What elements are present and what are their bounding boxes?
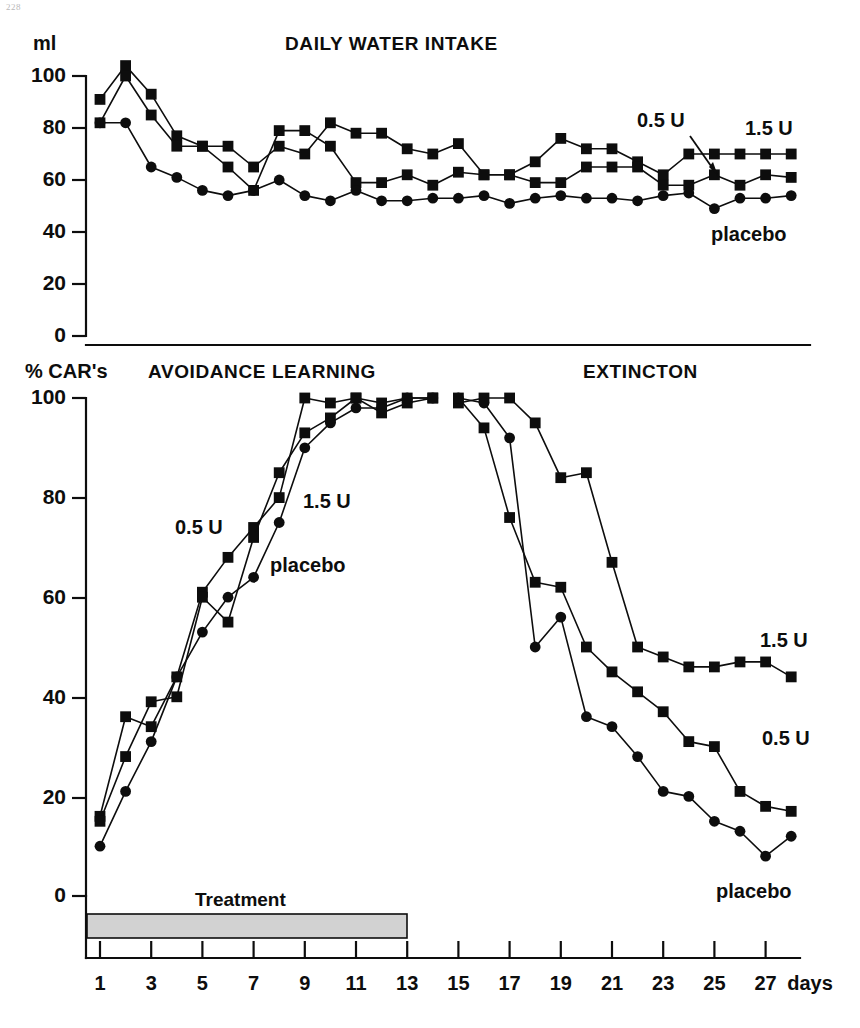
bottom-learning-15u-line: [100, 398, 433, 821]
top-y-tick-100: 100: [31, 63, 66, 86]
bottom-y-tick-40: 40: [43, 685, 66, 708]
bottom-extinction-05u-point: [735, 786, 746, 797]
bottom-learning-placebo-point: [171, 671, 182, 682]
bottom-learning-15u-point: [274, 467, 285, 478]
top-series-placebo-point: [299, 190, 310, 201]
top-label-1_5U: 1.5 U: [745, 117, 793, 139]
bottom-y-ticks: [72, 398, 86, 896]
top-series-placebo-point: [607, 193, 618, 204]
top-series-15u-point: [658, 180, 669, 191]
bottom-x-tick-label-23: 23: [652, 972, 674, 994]
bottom-extinction-placebo-point: [632, 751, 643, 762]
bottom-learning-placebo-point: [146, 736, 157, 747]
bottom-learning-placebo-point: [120, 786, 131, 797]
top-series-placebo-point: [248, 185, 259, 196]
bottom-learning-05u-point: [325, 398, 336, 409]
top-series-05u-point: [171, 130, 182, 141]
bottom-extinction-placebo-point: [683, 791, 694, 802]
bottom-extinction-placebo-point: [581, 711, 592, 722]
figure-root: 228 ml DAILY WATER INTAKE 100 80: [0, 0, 860, 1028]
bottom-label-placebo-learning: placebo: [270, 554, 346, 576]
top-series-15u-point: [427, 180, 438, 191]
bottom-extinction-placebo-point: [735, 826, 746, 837]
bottom-learning-placebo-point: [95, 841, 106, 852]
top-series-05u-point: [658, 169, 669, 180]
bottom-x-tick-label-3: 3: [146, 972, 157, 994]
bottom-y-tick-100: 100: [31, 385, 66, 408]
bottom-learning-placebo-point: [223, 592, 234, 603]
bottom-y-tick-labels: 100 80 60 40 20 0: [31, 385, 66, 906]
top-series-05u-point: [146, 89, 157, 100]
top-series-placebo-point: [197, 185, 208, 196]
bottom-panel-title-right: EXTINCTON: [583, 361, 698, 382]
bottom-extinction-05u-point: [658, 706, 669, 717]
top-series-placebo-point: [376, 195, 387, 206]
top-series-05u-point: [607, 143, 618, 154]
bottom-learning-placebo-point: [325, 418, 336, 429]
bottom-extinction-15u-point: [530, 418, 541, 429]
bottom-label-0_5U-extinction: 0.5 U: [762, 727, 810, 749]
bottom-x-tick-label-19: 19: [550, 972, 572, 994]
bottom-extinction-15u-point: [581, 467, 592, 478]
top-series-15u-point: [223, 162, 234, 173]
bottom-y-tick-80: 80: [43, 485, 66, 508]
top-y-tick-20: 20: [43, 271, 66, 294]
top-series-05u-point: [351, 128, 362, 139]
top-series-placebo-point: [555, 190, 566, 201]
top-series-placebo-point: [402, 195, 413, 206]
bottom-x-tick-label-27: 27: [754, 972, 776, 994]
bottom-learning-15u-point: [95, 816, 106, 827]
top-series-placebo-point: [146, 162, 157, 173]
bottom-extinction-05u-point: [479, 422, 490, 433]
top-series-placebo-point: [427, 193, 438, 204]
top-series-05u-point: [760, 149, 771, 160]
bottom-extinction-05u-point: [683, 736, 694, 747]
bottom-x-tick-label-25: 25: [703, 972, 725, 994]
top-series-placebo-point: [735, 193, 746, 204]
bottom-learning-placebo-point: [427, 393, 438, 404]
panel-daily-water-intake: ml DAILY WATER INTAKE 100 80 60 40: [31, 32, 810, 346]
bottom-learning-05u-point: [120, 711, 131, 722]
top-panel-title: DAILY WATER INTAKE: [285, 33, 498, 54]
top-series-placebo-point: [632, 195, 643, 206]
top-series-05u-point: [325, 117, 336, 128]
bottom-learning-05u-point: [274, 492, 285, 503]
bottom-x-tick-label-5: 5: [197, 972, 208, 994]
bottom-learning-placebo-point: [351, 403, 362, 414]
bottom-learning-15u-point: [248, 532, 259, 543]
top-label-placebo: placebo: [711, 223, 787, 245]
bottom-extinction-15u-point: [735, 657, 746, 668]
top-series-15u-point: [581, 162, 592, 173]
bottom-x-tick-label-9: 9: [299, 972, 310, 994]
bottom-extinction-15u-point: [504, 393, 515, 404]
top-y-tick-labels: 100 80 60 40 20 0: [31, 63, 66, 346]
bottom-x-tick-label-11: 11: [345, 972, 366, 994]
top-series-15u-point: [632, 162, 643, 173]
bottom-learning-15u-point: [223, 617, 234, 628]
bottom-extinction-placebo-point: [709, 816, 720, 827]
top-y-tick-60: 60: [43, 167, 66, 190]
bottom-learning-placebo-line: [100, 398, 433, 846]
top-series-15u-line: [100, 76, 791, 190]
bottom-learning-15u-point: [146, 696, 157, 707]
top-series-placebo-point: [709, 203, 720, 214]
top-series-15u-point: [479, 169, 490, 180]
top-series-15u-point: [197, 141, 208, 152]
bottom-learning-15u-point: [197, 592, 208, 603]
bottom-extinction-05u-point: [632, 686, 643, 697]
bottom-extinction-05u-point: [786, 806, 797, 817]
bottom-learning-placebo-point: [376, 403, 387, 414]
bottom-extinction-placebo-point: [555, 612, 566, 623]
top-series-placebo-point: [95, 117, 106, 128]
bottom-extinction-05u-point: [530, 577, 541, 588]
top-series-15u-point: [402, 169, 413, 180]
top-series-placebo-point: [351, 185, 362, 196]
top-y-axis: 100 80 60 40 20 0: [31, 63, 810, 346]
top-series-05u-point: [683, 149, 694, 160]
top-series-placebo-point: [453, 193, 464, 204]
bottom-learning-placebo-point: [274, 517, 285, 528]
top-series-05u-point: [95, 94, 106, 105]
top-series-placebo-point: [658, 190, 669, 201]
panel-avoidance-learning: % CAR's AVOIDANCE LEARNING EXTINCTON 100: [25, 360, 833, 994]
bottom-learning-05u-point: [223, 552, 234, 563]
